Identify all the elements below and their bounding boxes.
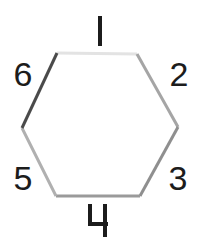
edge-label-5: 5 [10,161,36,195]
edge-label-3: 3 [165,161,191,195]
edge-label-2: 2 [166,57,192,91]
digit-four-stem-bar [103,204,107,237]
hexagon-figure: 1 2 3 4 5 6 [0,0,198,242]
edge-label-4: 4 [86,202,114,240]
edge-label-1: 1 [89,14,111,48]
hexagon-edge-1 [57,53,137,54]
digit-one-stroke [98,16,102,46]
edge-label-6: 6 [10,57,36,91]
